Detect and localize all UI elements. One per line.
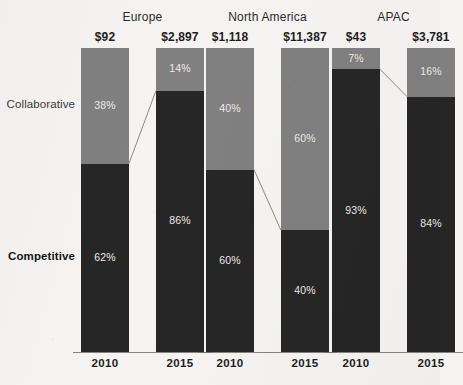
connector-line — [380, 69, 407, 96]
connector-line — [129, 91, 156, 164]
connector-line — [254, 170, 281, 231]
